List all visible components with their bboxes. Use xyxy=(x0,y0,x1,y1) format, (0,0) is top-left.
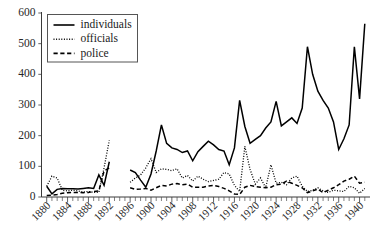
x-tick-label-group: 1892 xyxy=(91,199,115,223)
chart-canvas: 0100200300400500600 18801884188818921896… xyxy=(0,0,388,241)
series-line-police xyxy=(47,168,110,196)
x-tick-label: 1936 xyxy=(321,199,345,223)
y-tick-label: 300 xyxy=(18,98,36,110)
x-tick-label: 1884 xyxy=(49,199,73,223)
x-tick-label-group: 1900 xyxy=(133,199,157,223)
x-tick-label: 1928 xyxy=(279,199,303,223)
y-tick-label: 600 xyxy=(18,6,36,18)
x-tick-label: 1904 xyxy=(154,199,178,223)
x-tick-label-group: 1904 xyxy=(154,199,178,223)
line-chart: 0100200300400500600 18801884188818921896… xyxy=(0,0,388,241)
x-tick-label-group: 1940 xyxy=(341,199,365,223)
x-tick-label-group: 1936 xyxy=(321,199,345,223)
x-tick-label-group: 1896 xyxy=(112,199,136,223)
legend-label-individuals: individuals xyxy=(81,18,133,30)
x-tick-label: 1916 xyxy=(216,199,240,223)
legend-label-officials: officials xyxy=(81,32,119,44)
x-tick-label: 1880 xyxy=(29,199,53,223)
y-tick-label: 200 xyxy=(18,129,36,141)
y-tick-label: 400 xyxy=(18,67,36,79)
x-tick-label: 1912 xyxy=(195,199,219,223)
x-tick-label: 1888 xyxy=(70,199,94,223)
x-tick-label-group: 1880 xyxy=(29,199,53,223)
x-tick-label: 1900 xyxy=(133,199,157,223)
x-tick-label: 1892 xyxy=(91,199,115,223)
x-tick-label-group: 1912 xyxy=(195,199,219,223)
legend-label-police: police xyxy=(81,47,109,60)
x-tick-label: 1908 xyxy=(175,199,199,223)
x-tick-label-group: 1924 xyxy=(258,199,282,223)
x-tick-label: 1940 xyxy=(341,199,365,223)
x-tick-label-group: 1888 xyxy=(70,199,94,223)
x-tick-label: 1920 xyxy=(237,199,261,223)
chart-legend: individualsofficialspolice xyxy=(48,15,138,63)
series-line-individuals xyxy=(130,24,365,187)
x-tick-label-group: 1884 xyxy=(49,199,73,223)
y-tick-label: 500 xyxy=(18,37,36,49)
x-tick-label-group: 1920 xyxy=(237,199,261,223)
y-axis: 0100200300400500600 xyxy=(18,6,41,202)
series-line-officials xyxy=(47,140,110,192)
x-tick-label-group: 1916 xyxy=(216,199,240,223)
x-tick-label-group: 1908 xyxy=(175,199,199,223)
x-tick-label-group: 1932 xyxy=(300,199,324,223)
y-tick-label: 0 xyxy=(30,190,36,202)
x-tick-label: 1896 xyxy=(112,199,136,223)
y-tick-label: 100 xyxy=(18,159,36,171)
x-axis: 1880188418881892189619001904190819121916… xyxy=(29,197,370,223)
x-tick-label: 1932 xyxy=(300,199,324,223)
x-tick-label: 1924 xyxy=(258,199,282,223)
x-tick-label-group: 1928 xyxy=(279,199,303,223)
